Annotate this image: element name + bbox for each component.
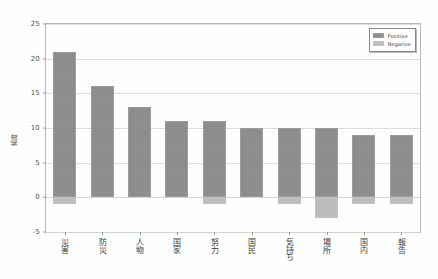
x-tick-label: 国内 — [359, 238, 367, 253]
y-tick-label: 0 — [35, 193, 40, 201]
bar-group[interactable] — [128, 24, 151, 232]
bar-negative[interactable] — [352, 197, 375, 204]
y-tick-label: 20 — [31, 55, 40, 63]
x-tick-label: 国民 — [247, 238, 255, 253]
bar-group[interactable] — [91, 24, 114, 232]
x-tick-mark — [327, 232, 328, 235]
y-tick-label: -5 — [33, 228, 40, 236]
legend-item-positive: Positive — [373, 32, 411, 39]
bar-negative[interactable] — [278, 197, 301, 204]
x-tick-label: 災害 — [60, 238, 68, 253]
legend-swatch-negative — [373, 41, 384, 46]
bar-positive[interactable] — [240, 128, 263, 197]
x-tick-mark — [289, 232, 290, 235]
bar-positive[interactable] — [53, 52, 76, 198]
chart-legend: Positive Negative — [369, 28, 416, 52]
y-tick-mark — [43, 162, 46, 163]
x-tick-mark — [401, 232, 402, 235]
bar-group[interactable] — [352, 24, 375, 232]
x-tick-mark — [140, 232, 141, 235]
x-tick-mark — [102, 232, 103, 235]
x-tick-label: 場所 — [322, 238, 330, 253]
y-tick-label: 25 — [31, 20, 40, 28]
y-tick-mark — [43, 197, 46, 198]
bar-group[interactable] — [390, 24, 413, 232]
y-tick-mark — [43, 24, 46, 25]
legend-swatch-positive — [373, 33, 384, 38]
x-tick-label: 防災 — [97, 238, 105, 253]
y-tick-label: 5 — [35, 159, 40, 167]
y-tick-mark — [43, 58, 46, 59]
x-tick-mark — [252, 232, 253, 235]
x-tick-mark — [214, 232, 215, 235]
x-tick-label: 気持ち — [284, 238, 292, 261]
bar-positive[interactable] — [390, 135, 413, 197]
bar-negative[interactable] — [315, 197, 338, 218]
bar-group[interactable] — [240, 24, 263, 232]
x-tick-mark — [177, 232, 178, 235]
bar-group[interactable] — [53, 24, 76, 232]
x-tick-label: 報告 — [396, 238, 404, 253]
x-tick-mark — [65, 232, 66, 235]
y-tick-label: 15 — [31, 89, 40, 97]
bar-positive[interactable] — [203, 121, 226, 197]
y-tick-label: 10 — [31, 124, 40, 132]
bar-positive[interactable] — [315, 128, 338, 197]
bar-positive[interactable] — [128, 107, 151, 197]
y-axis-title: 頻度 — [9, 134, 18, 146]
x-tick-mark — [364, 232, 365, 235]
bar-negative[interactable] — [203, 197, 226, 204]
y-tick-mark — [43, 93, 46, 94]
x-tick-label: 努力 — [209, 238, 217, 253]
legend-label-positive: Positive — [388, 33, 408, 39]
legend-label-negative: Negative — [388, 41, 411, 47]
bar-positive[interactable] — [165, 121, 188, 197]
bar-positive[interactable] — [278, 128, 301, 197]
x-tick-label: 国家 — [172, 238, 180, 253]
bar-positive[interactable] — [352, 135, 375, 197]
chart-figure: 頻度 2520151050-5 Positive Negative 災害防災人物… — [0, 0, 438, 279]
y-tick-mark — [43, 128, 46, 129]
bar-group[interactable] — [165, 24, 188, 232]
bar-positive[interactable] — [91, 86, 114, 197]
bar-group[interactable] — [278, 24, 301, 232]
bar-negative[interactable] — [53, 197, 76, 204]
bar-group[interactable] — [203, 24, 226, 232]
bar-group[interactable] — [315, 24, 338, 232]
legend-item-negative: Negative — [373, 40, 411, 47]
y-tick-mark — [43, 232, 46, 233]
x-tick-label: 人物 — [135, 238, 143, 253]
plot-area: 2520151050-5 Positive Negative — [45, 23, 421, 233]
bar-negative[interactable] — [390, 197, 413, 204]
